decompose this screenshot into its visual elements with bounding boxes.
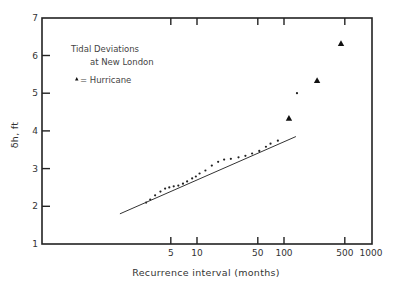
legend-title-line1: Tidal Deviations: [70, 44, 140, 54]
y-tick-label: 5: [32, 88, 38, 98]
hurricane-triangle-marker: [286, 115, 292, 121]
legend-title-line2: at New London: [90, 57, 154, 67]
observation-dot: [198, 172, 200, 174]
observation-dot: [159, 190, 161, 192]
hurricane-triangle-marker: [338, 40, 344, 46]
y-axis-ticks: 1234567: [32, 13, 50, 249]
hurricane-triangle-marker: [314, 77, 320, 83]
observation-dot: [265, 146, 267, 148]
observation-dot: [154, 194, 156, 196]
observation-dot: [164, 187, 166, 189]
x-axis-label: Recurrence interval (months): [132, 267, 280, 278]
observation-dot: [211, 164, 213, 166]
chart: 510501005001000 1234567 Recurrence inter…: [0, 0, 398, 286]
x-tick-label: 50: [252, 248, 264, 258]
x-tick-label: 1000: [360, 248, 383, 258]
observation-dot: [204, 169, 206, 171]
y-tick-label: 3: [32, 164, 38, 174]
observation-dot: [258, 150, 260, 152]
observation-dot: [186, 180, 188, 182]
y-tick-label: 4: [32, 126, 38, 136]
triangle-marker-icon: [75, 77, 79, 81]
x-tick-label: 500: [336, 248, 353, 258]
y-tick-label: 6: [32, 51, 38, 61]
observation-dot: [296, 92, 298, 94]
observation-dot: [173, 185, 175, 187]
y-axis-label: δh, ft: [9, 122, 20, 149]
observation-dot: [251, 152, 253, 154]
legend: Tidal Deviations at New London = Hurrica…: [70, 44, 154, 85]
observation-dot: [244, 155, 246, 157]
observation-dot: [277, 140, 279, 142]
y-tick-label: 1: [32, 239, 38, 249]
observation-dot: [191, 177, 193, 179]
legend-entry-hurricane: = Hurricane: [80, 75, 131, 85]
x-tick-label: 100: [275, 248, 292, 258]
y-tick-label: 7: [32, 13, 38, 23]
observation-dot: [195, 175, 197, 177]
x-axis-ticks: 510501005001000: [168, 18, 383, 258]
y-tick-label: 2: [32, 201, 38, 211]
x-tick-label: 10: [191, 248, 203, 258]
observation-dot: [223, 158, 225, 160]
observation-dot: [217, 161, 219, 163]
x-tick-label: 5: [168, 248, 174, 258]
observation-dot: [230, 158, 232, 160]
fit-line: [120, 137, 296, 214]
observation-dot: [269, 143, 271, 145]
observation-dot: [177, 184, 179, 186]
observation-dot: [168, 186, 170, 188]
observation-dot: [182, 183, 184, 185]
observation-dot: [237, 156, 239, 158]
